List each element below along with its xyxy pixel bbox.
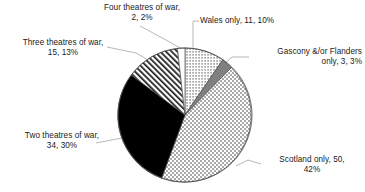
pie-label-gascony-line2: only, 3, 3% [322,57,362,66]
pie-label-scotland-only: Scotland only, 50, 42% [262,155,362,176]
pie-label-scotland-line2: 42% [304,165,321,174]
pie-label-gascony-line1: Gascony &/or Flanders [277,47,362,56]
pie-label-scotland-line1: Scotland only, 50, [279,155,344,164]
pie-label-four-theatres-line2: 2, 2% [131,13,152,22]
pie-label-three-theatres-of-war: Three theatres of war, 15, 13% [4,38,122,59]
pie-label-wales-text: Wales only, 11, 10% [200,16,274,25]
leader-line-wales [193,21,199,51]
pie-label-wales-only: Wales only, 11, 10% [200,16,318,26]
pie-label-two-theatres-line1: Two theatres of war, [25,131,99,140]
pie-label-four-theatres-line1: Four theatres of war, [104,3,180,12]
pie-label-two-theatres-line2: 34, 30% [47,141,77,150]
pie-label-four-theatres-of-war: Four theatres of war, 2, 2% [86,3,198,24]
pie-label-three-theatres-line1: Three theatres of war, [23,38,104,47]
pie-chart-figure: Four theatres of war, 2, 2% Wales only, … [0,0,365,192]
pie-label-two-theatres-of-war: Two theatres of war, 34, 30% [2,131,122,152]
pie-label-three-theatres-line2: 15, 13% [48,48,78,57]
pie-label-gascony-flanders-only: Gascony &/or Flanders only, 3, 3% [250,47,362,68]
leader-line-scotland [236,160,261,166]
pie-slices [118,48,252,182]
leader-line-four-theatres [140,26,182,49]
